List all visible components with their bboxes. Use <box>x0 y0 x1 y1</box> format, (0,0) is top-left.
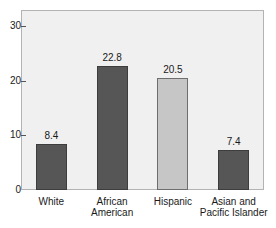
y-tick-mark <box>21 26 26 27</box>
x-axis-category-label: White <box>17 196 86 207</box>
bar-value-label: 22.8 <box>87 53 137 63</box>
category-label-line: Asian and <box>211 196 255 207</box>
category-label-line: Hispanic <box>154 196 192 207</box>
bar <box>218 150 249 190</box>
bar-value-label: 8.4 <box>26 131 76 141</box>
y-tick-mark <box>21 81 26 82</box>
bar <box>36 144 67 190</box>
category-label-line: African <box>97 196 128 207</box>
y-tick-mark <box>21 135 26 136</box>
bar-value-label: 7.4 <box>209 137 259 147</box>
category-label-line: American <box>78 207 147 218</box>
bar-chart: 0102030 8.4White22.8AfricanAmerican20.5H… <box>0 0 276 228</box>
y-axis-tick-marks <box>0 0 276 228</box>
category-label-line: White <box>39 196 65 207</box>
category-label-line: Pacific Islander <box>199 207 268 218</box>
bar <box>97 66 128 190</box>
x-axis-category-label: Hispanic <box>139 196 208 207</box>
bar <box>157 78 188 190</box>
bar-value-label: 20.5 <box>148 65 198 75</box>
x-axis-category-label: AfricanAmerican <box>78 196 147 218</box>
x-axis-category-label: Asian andPacific Islander <box>199 196 268 218</box>
